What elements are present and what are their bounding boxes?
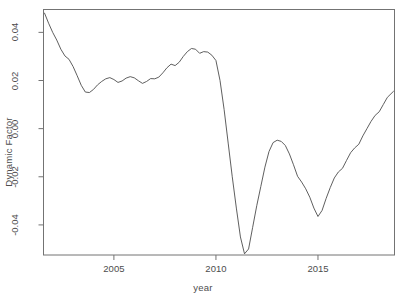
plot-canvas: [0, 0, 406, 304]
y-tick-label: 0.02: [8, 61, 22, 101]
dynamic-factor-chart: Dynamic Factor year 0.040.020.00-0.02-0.…: [0, 0, 406, 304]
y-axis-ticks: [39, 32, 44, 225]
x-axis-ticks: [114, 255, 318, 260]
plot-frame: [44, 10, 395, 256]
y-tick-label: -0.04: [8, 205, 22, 245]
y-tick-label: 0.00: [8, 109, 22, 149]
x-tick-label: 2005: [89, 263, 139, 274]
series-line-dynamic-factor: [45, 13, 394, 254]
x-tick-label: 2010: [191, 263, 241, 274]
y-tick-label: 0.04: [8, 12, 22, 52]
y-tick-label: -0.02: [8, 157, 22, 197]
x-axis-title: year: [0, 282, 406, 293]
x-tick-label: 2015: [293, 263, 343, 274]
